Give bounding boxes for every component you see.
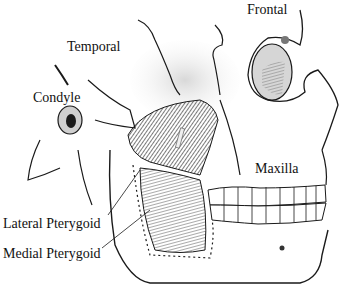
label-lateral-pterygoid: Lateral Pterygoid [3,217,101,231]
frontal-bone [248,10,338,150]
label-maxilla: Maxilla [255,162,299,176]
leader-medial-pterygoid [102,210,150,248]
label-medial-pterygoid: Medial Pterygoid [3,247,101,261]
label-condyle: Condyle [33,91,80,105]
lateral-pterygoid-muscle [128,100,218,175]
label-frontal: Frontal [247,3,287,17]
condyle-region [28,65,135,205]
anatomy-figure: Frontal Temporal Condyle Maxilla Lateral… [0,0,345,304]
teeth [208,185,326,224]
leader-lateral-pterygoid [108,170,140,215]
label-temporal: Temporal [67,40,120,54]
